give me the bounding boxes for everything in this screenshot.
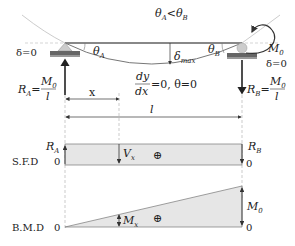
angle-relation: θA<θB	[155, 7, 188, 22]
svg-text:M0: M0	[269, 75, 286, 90]
sfd-ra-label: RA	[45, 140, 59, 155]
slope-condition: dy dx =0, θ=0	[135, 70, 197, 98]
right-delta-label: δ=0	[266, 58, 287, 69]
bmd-label: B.M.D	[12, 222, 44, 233]
bmd-sign: ⊕	[153, 212, 162, 225]
delta-max-label: δmax	[174, 50, 195, 65]
theta-b-label: θB	[208, 43, 220, 58]
svg-text:dx: dx	[135, 85, 149, 98]
reaction-a-label: RA= M0 l	[17, 75, 57, 103]
svg-text:l: l	[275, 90, 279, 103]
svg-text:l: l	[46, 90, 50, 103]
theta-a-arc	[84, 43, 85, 50]
reaction-b-label: RB= M0 l	[246, 75, 286, 103]
svg-text:RB=: RB=	[246, 83, 270, 98]
deflected-curve-extension	[22, 15, 65, 43]
bmd-zero-right: 0	[246, 222, 252, 233]
span-label: l	[150, 103, 154, 116]
svg-text:dy: dy	[136, 70, 150, 83]
left-support	[50, 43, 80, 57]
x-label: x	[89, 86, 96, 99]
bmd-zero-left: 0	[54, 222, 60, 233]
left-delta-label: δ=0	[16, 47, 37, 58]
right-support	[227, 43, 257, 59]
moment-label: M0	[267, 42, 284, 57]
svg-text:=0, θ=0: =0, θ=0	[151, 78, 197, 91]
beam-diagram: θA<θB δ=0 θA RA= M0 l x δmax θB dy dx =0…	[0, 0, 295, 246]
sfd-rb-label: RB	[247, 140, 261, 155]
sfd-zero-left: 0	[54, 156, 60, 167]
sfd-zero-right: 0	[246, 158, 252, 169]
bmd-m0-label: M0	[246, 200, 263, 215]
svg-text:RA=: RA=	[17, 83, 41, 98]
sfd-sign: ⊕	[153, 149, 162, 162]
theta-a-label: θA	[93, 45, 105, 60]
sfd-label: S.F.D	[12, 156, 38, 167]
svg-text:M0: M0	[40, 75, 57, 90]
